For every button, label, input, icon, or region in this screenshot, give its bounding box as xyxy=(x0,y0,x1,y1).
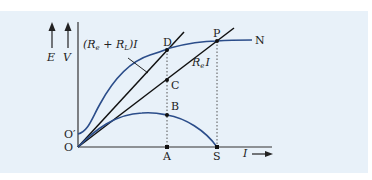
v-axis-arrow-icon xyxy=(65,22,72,48)
label-p: P xyxy=(213,27,221,40)
i-axis-label: I xyxy=(242,147,248,160)
label-b: B xyxy=(171,100,179,113)
point-c xyxy=(165,78,169,82)
point-b xyxy=(165,113,169,117)
e-axis-label: E xyxy=(46,51,55,64)
point-a xyxy=(165,145,169,149)
e-axis-arrow-icon xyxy=(49,22,56,48)
label-a: A xyxy=(162,150,172,163)
i-axis-arrow-icon xyxy=(252,151,273,157)
label-o-prime: O′ xyxy=(64,128,76,141)
external-resistance-label: ReI xyxy=(191,56,210,70)
v-axis-label: V xyxy=(63,51,72,64)
emf-curve xyxy=(78,40,252,134)
total-resistance-label: (Re + RL)I xyxy=(83,38,138,52)
label-c: C xyxy=(171,79,179,92)
point-s xyxy=(215,145,219,149)
characteristic-diagram: E V I (Re + RL)I ReI D C B A P S N O O′ xyxy=(0,0,372,180)
terminal-voltage-curve xyxy=(78,113,217,147)
label-d: D xyxy=(163,36,172,49)
label-n: N xyxy=(255,34,265,47)
label-s: S xyxy=(213,150,221,163)
label-o: O xyxy=(64,141,73,154)
